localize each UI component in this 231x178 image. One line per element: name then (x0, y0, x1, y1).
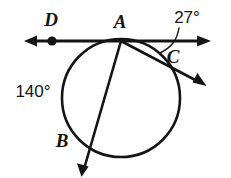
point-d-dot (47, 36, 56, 45)
angle-27-label: 27° (174, 8, 200, 27)
tangent-left-arrowhead (24, 36, 37, 47)
tangent-right-arrowhead (197, 36, 211, 47)
point-c-label: C (167, 46, 180, 67)
point-a-label: A (113, 11, 127, 32)
ray-ab-arrowhead (77, 163, 89, 177)
secant-ray-ab (84, 41, 121, 169)
ray-ac-arrowhead (193, 73, 207, 86)
secant-ray-ac (121, 41, 199, 82)
geometry-figure: A B C D 27° 140° (0, 0, 231, 178)
arc-140-label: 140° (15, 82, 50, 101)
geometry-canvas: A B C D 27° 140° (0, 0, 231, 178)
circle-shape (62, 39, 180, 157)
point-b-label: B (55, 130, 69, 151)
point-d-label: D (43, 9, 58, 30)
